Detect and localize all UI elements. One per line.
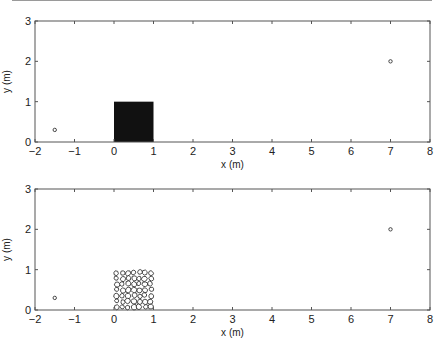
particle — [121, 271, 125, 275]
x-tick-label: 0 — [111, 313, 117, 325]
particle — [120, 282, 124, 286]
circle-marker — [53, 128, 56, 131]
circle-marker — [53, 296, 56, 299]
x-tick-label: 8 — [427, 145, 433, 157]
particle — [132, 293, 137, 298]
y-tick-label: 1 — [25, 96, 31, 108]
particle — [149, 276, 154, 281]
y-tick-label: 3 — [25, 183, 31, 195]
figure: −2−10123456780123x (m)y (m)−2−1012345678… — [0, 0, 443, 353]
particle — [137, 276, 141, 280]
x-tick-label: 1 — [150, 313, 156, 325]
x-axis-label: x (m) — [221, 159, 244, 170]
particle — [142, 270, 147, 275]
particle — [131, 299, 137, 304]
particle — [141, 276, 147, 281]
particle — [115, 299, 119, 303]
particle — [142, 288, 147, 293]
x-tick-label: 6 — [348, 313, 354, 325]
y-tick-label: 2 — [25, 223, 31, 235]
particle — [132, 281, 137, 287]
x-tick-label: 5 — [308, 145, 314, 157]
particle — [126, 281, 131, 286]
x-tick-label: 3 — [229, 313, 235, 325]
particle — [149, 294, 154, 299]
x-axis-label: x (m) — [221, 327, 244, 338]
y-tick-label: 0 — [25, 304, 31, 316]
axes-box — [35, 21, 430, 142]
particle — [142, 293, 146, 298]
particle — [114, 276, 118, 280]
particle — [131, 270, 135, 275]
particle — [120, 305, 125, 309]
x-tick-label: 7 — [387, 313, 393, 325]
particle — [136, 304, 142, 310]
particle — [125, 293, 131, 298]
particle — [114, 271, 119, 276]
particle — [114, 282, 120, 287]
particle — [126, 275, 131, 280]
particle — [120, 277, 125, 282]
x-tick-label: 4 — [269, 145, 275, 157]
circle-marker — [389, 228, 392, 231]
x-tick-label: 2 — [190, 313, 196, 325]
y-tick-label: 1 — [25, 264, 31, 276]
y-axis-label: y (m) — [1, 70, 12, 93]
particle — [143, 305, 148, 310]
particle — [125, 298, 131, 303]
x-tick-label: 8 — [427, 313, 433, 325]
particle-assembly — [114, 270, 154, 311]
particle — [149, 287, 153, 291]
x-tick-label: 6 — [348, 145, 354, 157]
x-tick-label: 5 — [308, 313, 314, 325]
particle — [137, 288, 142, 293]
particle — [132, 276, 137, 281]
particle — [147, 299, 153, 304]
x-tick-label: −1 — [68, 145, 81, 157]
particle — [114, 287, 119, 291]
x-tick-label: 3 — [229, 145, 235, 157]
particle — [126, 271, 131, 276]
x-tick-label: 0 — [111, 145, 117, 157]
x-tick-label: 1 — [150, 145, 156, 157]
y-tick-label: 3 — [25, 15, 31, 27]
y-axis-label: y (m) — [1, 238, 12, 261]
circle-marker — [389, 60, 392, 63]
particle — [142, 282, 148, 287]
particle — [115, 305, 120, 310]
particle — [126, 287, 131, 293]
subplot-bottom: −2−10123456780123x (m)y (m) — [1, 183, 433, 338]
particle — [138, 270, 143, 275]
axes-box — [35, 189, 430, 310]
y-tick-label: 2 — [25, 55, 31, 67]
particle — [120, 293, 125, 298]
particle — [149, 271, 154, 276]
particle — [148, 281, 153, 286]
subplot-top: −2−10123456780123x (m)y (m) — [1, 15, 433, 170]
particle — [121, 288, 126, 293]
particle — [148, 304, 153, 309]
particle — [137, 281, 141, 285]
particle — [143, 299, 148, 304]
particle — [138, 294, 143, 298]
solid-block — [114, 102, 154, 142]
particle — [125, 305, 129, 310]
x-tick-label: −1 — [68, 313, 81, 325]
x-tick-label: 7 — [387, 145, 393, 157]
x-tick-label: 4 — [269, 313, 275, 325]
y-tick-label: 0 — [25, 136, 31, 148]
x-tick-label: 2 — [190, 145, 196, 157]
particle — [114, 293, 119, 299]
